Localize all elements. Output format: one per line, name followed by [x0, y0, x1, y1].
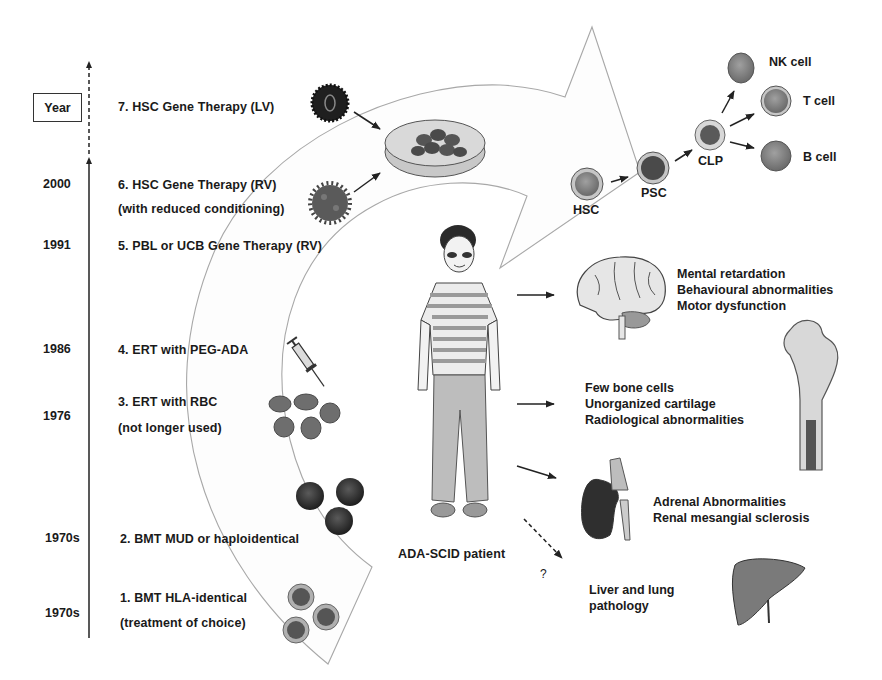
nk-cell-label: NK cell — [769, 55, 811, 69]
bone-line-3: Radiological abnormalities — [585, 412, 744, 428]
brain-line-3: Motor dysfunction — [677, 298, 833, 314]
treatment-4-label: 4. ERT with PEG-ADA — [118, 342, 248, 358]
clp-label: CLP — [698, 154, 723, 168]
timeline-axis — [86, 61, 92, 638]
patient-label: ADA-SCID patient — [398, 546, 505, 562]
treatment-7-label: 7. HSC Gene Therapy (LV) — [118, 99, 274, 115]
brain-line-2: Behavioural abnormalities — [677, 282, 833, 298]
bone-line-1: Few bone cells — [585, 380, 744, 396]
year-axis-label: Year — [33, 93, 82, 122]
hsc-cell-icon — [571, 168, 603, 200]
treatment-1-label: 1. BMT HLA-identical — [120, 590, 247, 606]
uncertain-marker: ? — [540, 567, 547, 581]
b-cell-label: B cell — [803, 150, 836, 164]
year-label-2000: 2000 — [43, 177, 71, 191]
year-label-1970s-mud: 1970s — [45, 531, 80, 545]
bone-line-2: Unorganized cartilage — [585, 396, 744, 412]
b-cell-icon — [761, 141, 791, 171]
psc-cell-icon — [637, 152, 669, 184]
year-label-1976: 1976 — [43, 409, 71, 423]
liver-icon — [732, 559, 805, 625]
t-cell-label: T cell — [803, 94, 835, 108]
brain-icon — [577, 257, 665, 339]
treatment-5-label: 5. PBL or UCB Gene Therapy (RV) — [118, 238, 322, 254]
year-label-1986: 1986 — [43, 342, 71, 356]
year-label-1970s-hla: 1970s — [45, 606, 80, 620]
treatment-3-label: 3. ERT with RBC — [118, 394, 217, 410]
kidney-icon — [582, 458, 630, 540]
nk-cell-icon — [728, 53, 754, 83]
psc-label: PSC — [641, 186, 667, 200]
bone-icon — [784, 320, 838, 470]
dashed-arrow-to-liver — [524, 519, 562, 558]
year-label-1991: 1991 — [43, 238, 71, 252]
kidney-manifestations: Adrenal Abnormalities Renal mesangial sc… — [653, 494, 809, 526]
hsc-label: HSC — [573, 203, 599, 217]
liver-line-2: pathology — [589, 598, 674, 614]
t-cell-icon — [761, 86, 791, 116]
bone-manifestations: Few bone cells Unorganized cartilage Rad… — [585, 380, 744, 428]
lentivirus-icon — [312, 85, 348, 121]
treatment-6-label: 6. HSC Gene Therapy (RV) — [118, 177, 276, 193]
petri-dish-icon — [385, 120, 485, 177]
brain-line-1: Mental retardation — [677, 266, 833, 282]
arrow-to-kidney — [517, 466, 556, 478]
clp-cell-icon — [695, 120, 725, 150]
kidney-line-2: Renal mesangial sclerosis — [653, 510, 809, 526]
liver-line-1: Liver and lung — [589, 582, 674, 598]
treatment-1-sublabel: (treatment of choice) — [120, 615, 246, 631]
brain-manifestations: Mental retardation Behavioural abnormali… — [677, 266, 833, 314]
treatment-6-sublabel: (with reduced conditioning) — [118, 201, 285, 217]
syringe-icon — [287, 337, 329, 390]
treatment-3-sublabel: (not longer used) — [118, 420, 222, 436]
liver-manifestations: Liver and lung pathology — [589, 582, 674, 614]
treatment-2-label: 2. BMT MUD or haploidentical — [120, 531, 299, 547]
kidney-line-1: Adrenal Abnormalities — [653, 494, 809, 510]
patient-figure — [418, 225, 500, 517]
